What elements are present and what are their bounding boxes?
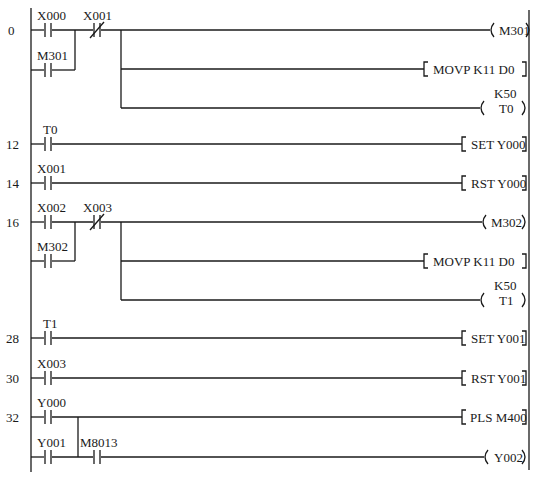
timer-preset-k50-2: K50 bbox=[494, 279, 516, 292]
contact-label-y001: Y001 bbox=[37, 436, 66, 449]
step-number-32: 32 bbox=[6, 411, 30, 424]
output-label-t1: T1 bbox=[499, 294, 513, 307]
output-label-pls-m400: PLS M400 bbox=[470, 411, 527, 424]
contact-label-x002: X002 bbox=[37, 201, 66, 214]
output-label-y002: Y002 bbox=[494, 451, 523, 464]
contact-label-x003-nc: X003 bbox=[83, 201, 112, 214]
contact-label-x001: X001 bbox=[37, 162, 66, 175]
rung-28 bbox=[31, 331, 526, 345]
rung-14 bbox=[31, 176, 526, 190]
step-number-0: 0 bbox=[8, 24, 32, 37]
contact-label-x000: X000 bbox=[37, 9, 66, 22]
contact-label-x003: X003 bbox=[37, 357, 66, 370]
rung-30 bbox=[31, 371, 526, 385]
output-label-m302: M302 bbox=[491, 216, 522, 229]
contact-label-m302: M302 bbox=[37, 240, 68, 253]
output-label-t0: T0 bbox=[499, 102, 513, 115]
output-label-rst-y000: RST Y000 bbox=[471, 177, 526, 190]
contact-label-t0: T0 bbox=[43, 123, 57, 136]
contact-label-x001-nc: X001 bbox=[83, 9, 112, 22]
contact-no-x002 bbox=[45, 215, 51, 229]
output-label-m301: M301 bbox=[499, 24, 530, 37]
output-label-rst-y001: RST Y001 bbox=[471, 372, 526, 385]
output-label-movp-2: MOVP K11 D0 bbox=[433, 255, 514, 268]
contact-no-y001 bbox=[45, 450, 51, 464]
contact-no-x000 bbox=[45, 23, 51, 37]
output-label-set-y000: SET Y000 bbox=[471, 138, 526, 151]
timer-preset-k50-1: K50 bbox=[494, 87, 516, 100]
step-number-14: 14 bbox=[6, 177, 30, 190]
output-label-movp-1: MOVP K11 D0 bbox=[433, 63, 514, 76]
contact-no-x003 bbox=[45, 371, 51, 385]
contact-no-t1 bbox=[45, 331, 51, 345]
contact-label-y000: Y000 bbox=[37, 396, 66, 409]
contact-no-m8013 bbox=[94, 450, 100, 464]
contact-no-y000 bbox=[45, 410, 51, 424]
contact-label-m301: M301 bbox=[37, 49, 68, 62]
contact-label-t1: T1 bbox=[43, 317, 57, 330]
contact-no-m302 bbox=[45, 254, 51, 268]
step-number-30: 30 bbox=[6, 372, 30, 385]
rung-12 bbox=[31, 137, 526, 151]
step-number-12: 12 bbox=[6, 138, 30, 151]
contact-no-x001 bbox=[45, 176, 51, 190]
contact-no-t0 bbox=[45, 137, 51, 151]
contact-no-m301 bbox=[45, 63, 51, 77]
contact-label-m8013: M8013 bbox=[80, 436, 118, 449]
step-number-16: 16 bbox=[6, 216, 30, 229]
step-number-28: 28 bbox=[6, 332, 30, 345]
output-label-set-y001: SET Y001 bbox=[471, 332, 526, 345]
